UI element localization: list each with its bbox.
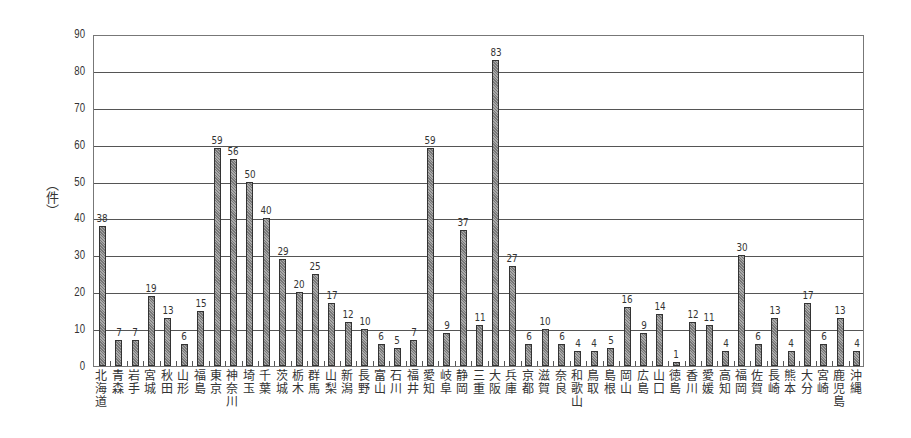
value-label: 27 (504, 252, 520, 265)
x-tick-label: 岡山 (618, 370, 634, 396)
value-label: 16 (619, 293, 635, 306)
bar (197, 311, 204, 366)
x-tick (849, 361, 850, 366)
x-tick-label: 滋賀 (536, 370, 552, 396)
x-tick-label: 高知 (717, 370, 733, 396)
x-tick-label: 神奈川 (224, 370, 240, 409)
x-tick (619, 361, 620, 366)
x-tick (521, 361, 522, 366)
value-label: 13 (767, 304, 783, 317)
bar (230, 159, 237, 366)
value-label: 10 (537, 315, 553, 328)
bar (640, 333, 647, 366)
bar (427, 148, 434, 366)
x-tick-label: 宮城 (142, 370, 158, 396)
x-tick-label: 香川 (684, 370, 700, 396)
bar (574, 351, 581, 366)
x-tick (717, 361, 718, 366)
value-label: 17 (324, 289, 340, 302)
value-label: 5 (603, 334, 619, 347)
x-tick-label: 茨城 (274, 370, 290, 396)
value-label: 50 (242, 168, 258, 181)
x-tick-label: 徳島 (667, 370, 683, 396)
x-tick-label: 鹿児島 (831, 370, 847, 409)
bar (492, 60, 499, 366)
bar (164, 318, 171, 366)
x-tick-label: 秋田 (159, 370, 175, 396)
value-label: 6 (816, 330, 832, 343)
x-tick (356, 361, 357, 366)
bar-chart: （件） 0102030405060708090 3877191361559565… (0, 0, 911, 438)
x-tick (274, 361, 275, 366)
x-tick-label: 沖縄 (848, 370, 864, 396)
bar (99, 226, 106, 366)
x-tick-label: 佐賀 (749, 370, 765, 396)
x-tick (685, 361, 686, 366)
x-tick-label: 栃木 (290, 370, 306, 396)
bar (689, 322, 696, 366)
x-tick-label: 島根 (602, 370, 618, 396)
x-tick-label: 山形 (175, 370, 191, 396)
y-tick-label: 60 (63, 138, 85, 152)
value-label: 7 (406, 326, 422, 339)
x-tick (783, 361, 784, 366)
x-tick (291, 361, 292, 366)
bar (542, 329, 549, 366)
x-tick (701, 361, 702, 366)
x-tick (422, 361, 423, 366)
x-tick (455, 361, 456, 366)
y-tick-label: 90 (63, 27, 85, 41)
x-tick-label: 東京 (208, 370, 224, 396)
bar (853, 351, 860, 366)
value-label: 4 (849, 337, 865, 350)
x-tick (488, 361, 489, 366)
x-tick-label: 静岡 (454, 370, 470, 396)
bar (706, 325, 713, 366)
x-tick (471, 361, 472, 366)
value-label: 25 (307, 260, 323, 273)
y-axis-unit: （件） (42, 178, 61, 217)
value-label: 38 (94, 212, 110, 225)
y-tick-label: 50 (63, 175, 85, 189)
value-label: 6 (176, 330, 192, 343)
plot-area: 3877191361559565040292025171210657599371… (93, 35, 864, 367)
value-label: 6 (521, 330, 537, 343)
bar (476, 325, 483, 366)
x-tick-label: 宮崎 (815, 370, 831, 396)
value-label: 56 (225, 145, 241, 158)
y-tick-label: 0 (63, 359, 85, 373)
gridline (94, 293, 863, 294)
value-label: 83 (488, 46, 504, 59)
value-label: 30 (734, 241, 750, 254)
y-tick-label: 70 (63, 101, 85, 115)
x-tick (143, 361, 144, 366)
value-label: 20 (291, 278, 307, 291)
x-tick (209, 361, 210, 366)
value-label: 17 (800, 289, 816, 302)
x-tick-label: 広島 (635, 370, 651, 396)
x-tick-label: 大阪 (487, 370, 503, 396)
value-label: 7 (127, 326, 143, 339)
bar (738, 255, 745, 366)
x-tick-label: 山梨 (323, 370, 339, 396)
x-tick-label: 長崎 (766, 370, 782, 396)
x-tick (110, 361, 111, 366)
bar (607, 348, 614, 366)
bar (181, 344, 188, 366)
value-label: 11 (701, 311, 717, 324)
x-tick (389, 361, 390, 366)
y-tick-label: 40 (63, 211, 85, 225)
x-tick-label: 大分 (799, 370, 815, 396)
value-label: 12 (685, 308, 701, 321)
x-tick (832, 361, 833, 366)
x-tick (307, 361, 308, 366)
bar (509, 266, 516, 366)
value-label: 1 (668, 348, 684, 361)
x-tick (799, 361, 800, 366)
value-label: 6 (750, 330, 766, 343)
bar (788, 351, 795, 366)
y-tick-label: 10 (63, 322, 85, 336)
x-tick-label: 熊本 (782, 370, 798, 396)
value-label: 59 (422, 134, 438, 147)
bar (328, 303, 335, 366)
